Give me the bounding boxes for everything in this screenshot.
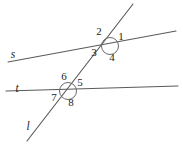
angle-label-4: 4 (109, 51, 115, 63)
geometry-canvas: 1 2 3 4 5 6 7 8 s t l (0, 0, 183, 146)
line-t (6, 86, 178, 91)
geometry-diagram: 1 2 3 4 5 6 7 8 s t l (0, 0, 183, 146)
angle-label-5: 5 (77, 76, 83, 88)
angle-label-6: 6 (61, 70, 67, 82)
line-label-l: l (26, 120, 29, 132)
line-label-t: t (15, 82, 19, 94)
angle-label-1: 1 (118, 30, 124, 42)
line-label-s: s (11, 48, 16, 60)
angle-label-7: 7 (51, 91, 57, 103)
line-l-transversal (27, 4, 133, 141)
angle-label-8: 8 (68, 96, 74, 108)
angle-label-3: 3 (91, 46, 97, 58)
angle-label-2: 2 (96, 25, 102, 37)
